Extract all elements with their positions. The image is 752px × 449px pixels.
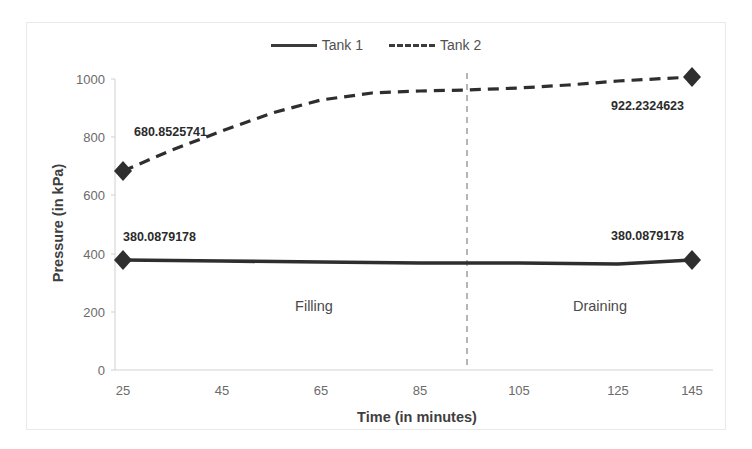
y-tick-label: 0 — [98, 363, 105, 378]
data-point-marker-tank-2-end — [683, 67, 701, 87]
x-tick-label: 65 — [314, 383, 328, 398]
x-tick-label: 105 — [508, 383, 530, 398]
y-axis-title: Pressure (in kPa) — [50, 164, 66, 283]
series-line-tank-2 — [123, 77, 692, 171]
x-tick-label: 145 — [681, 383, 703, 398]
x-axis-title: Time (in minutes) — [357, 409, 477, 425]
x-tick-label: 85 — [413, 383, 427, 398]
x-tick-label: 45 — [215, 383, 229, 398]
point-label-tank-2-end: 922.2324623 — [611, 99, 684, 113]
annotation-draining: Draining — [573, 298, 627, 314]
x-tick-label: 25 — [116, 383, 130, 398]
x-tick-label: 125 — [607, 383, 629, 398]
point-label-tank-2-start: 680.8525741 — [134, 125, 207, 139]
chart-container: Tank 1 Tank 2 1000 800 600 400 200 0 25 … — [26, 22, 726, 430]
data-point-marker-tank-1-start — [114, 250, 132, 270]
data-point-marker-tank-1-end — [683, 250, 701, 270]
point-label-tank-1-end: 380.0879178 — [611, 229, 684, 243]
y-tick-label: 600 — [83, 188, 105, 203]
series-line-tank-1 — [123, 260, 692, 264]
plot-area: 1000 800 600 400 200 0 25 45 65 85 105 1… — [27, 23, 727, 431]
y-tick-label: 1000 — [76, 72, 105, 87]
y-tick-label: 400 — [83, 247, 105, 262]
y-tick-label: 800 — [83, 130, 105, 145]
data-point-marker-tank-2-start — [114, 161, 132, 181]
y-tick-label: 200 — [83, 305, 105, 320]
annotation-filling: Filling — [295, 298, 333, 314]
point-label-tank-1-start: 380.0879178 — [123, 230, 196, 244]
